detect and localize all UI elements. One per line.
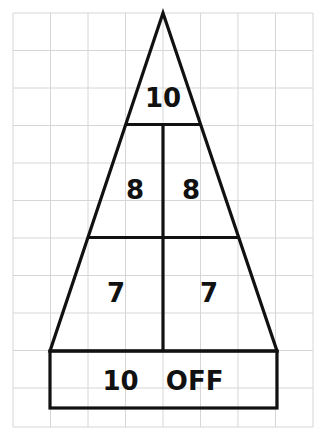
shuffleboard-diagram: 10 8 8 7 7 10 OFF (0, 0, 325, 439)
zone-middle-right-label: 8 (182, 175, 200, 205)
zone-bottom-right-label: 7 (200, 278, 218, 308)
zone-middle-left-label: 8 (126, 175, 144, 205)
off-zone-label: 10 OFF (103, 366, 224, 396)
zone-top-label: 10 (145, 83, 181, 113)
zone-bottom-left-label: 7 (107, 278, 125, 308)
